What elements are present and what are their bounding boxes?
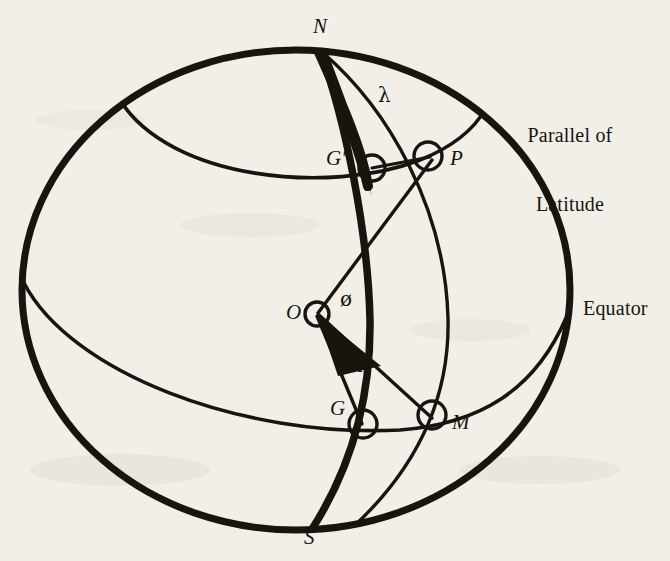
annotation-parallel-of-latitude: Parallel of Latitude — [490, 78, 650, 262]
sphere-outline-circle — [22, 50, 570, 530]
point-label-O: O — [286, 300, 301, 324]
angle-label-phi: ø — [340, 288, 352, 311]
diagram-canvas: N S O G′ P G M λ ø λ Parallel of Latitud… — [0, 0, 670, 561]
point-markers — [305, 142, 446, 438]
annotation-parallel-line2: Latitude — [490, 193, 650, 216]
point-label-N: N — [313, 14, 327, 38]
parallel-of-latitude-curve — [120, 100, 486, 178]
annotation-parallel-line1: Parallel of — [490, 124, 650, 147]
angle-label-lambda-bottom: λ — [350, 354, 363, 377]
point-label-M: M — [452, 410, 470, 434]
point-label-S: S — [304, 525, 315, 549]
point-label-G-prime: G′ — [326, 146, 346, 170]
angle-label-lambda-top: λ — [378, 84, 391, 107]
point-label-G: G — [330, 396, 345, 420]
point-label-P: P — [450, 146, 463, 170]
ray-O-to-P — [318, 160, 432, 313]
annotation-equator: Equator — [583, 297, 648, 320]
